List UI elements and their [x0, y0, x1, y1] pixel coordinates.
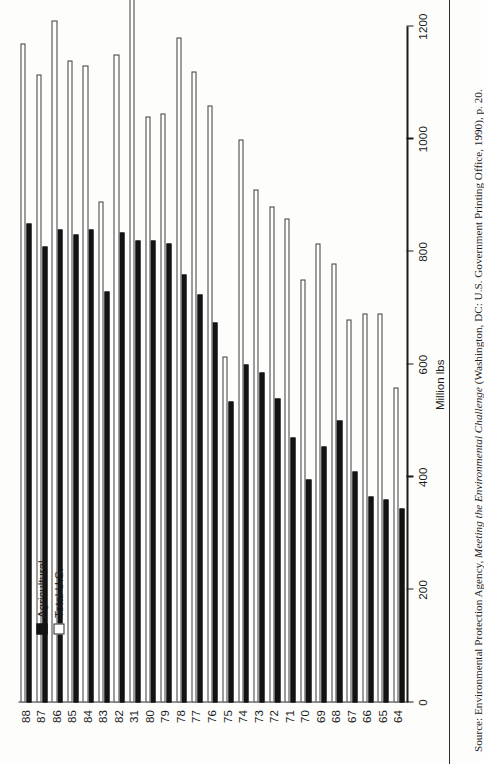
bar-agricultural: [150, 240, 155, 702]
category-label: 70: [298, 710, 310, 723]
bar-agricultural: [228, 401, 233, 702]
axis-tick-label: 400: [416, 467, 428, 487]
axis-tick-label: 600: [416, 354, 428, 374]
axis-tick-label: 0: [416, 699, 428, 706]
axis-tick: [406, 701, 413, 702]
category-label: 87: [34, 710, 46, 723]
bar-total-us: [362, 313, 367, 702]
bar-agricultural: [181, 274, 186, 702]
axis-tick-label: 1000: [416, 125, 428, 151]
bar-total-us: [377, 313, 382, 702]
category-label: 78: [174, 710, 186, 723]
bar-agricultural: [305, 479, 310, 702]
category-label: 69: [314, 710, 326, 723]
bar-total-us: [331, 263, 336, 702]
legend-swatch-total-us: [53, 623, 64, 634]
bar-agricultural: [166, 243, 171, 702]
category-label: 64: [391, 710, 403, 723]
bar-agricultural: [399, 508, 404, 702]
bar-total-us: [222, 356, 227, 702]
bar-agricultural: [104, 291, 109, 702]
category-label: 73: [252, 710, 264, 723]
bar-total-us: [20, 43, 25, 702]
category-label: 88: [19, 710, 31, 723]
category-label: 65: [376, 710, 388, 723]
bar-agricultural: [135, 240, 140, 702]
bar-agricultural: [321, 446, 326, 702]
bar-total-us: [393, 387, 398, 702]
category-label: 86: [50, 710, 62, 723]
bar-agricultural: [212, 322, 217, 702]
legend-label: Agricultural: [35, 560, 47, 618]
bar-agricultural: [368, 496, 373, 702]
bar-agricultural: [336, 420, 341, 702]
rotated-chart-stage: 020040060080010001200Million lbs 6465666…: [0, 0, 449, 764]
category-label: 68: [329, 710, 341, 723]
category-label: 66: [360, 710, 372, 723]
category-label: 82: [112, 710, 124, 723]
bar-total-us: [98, 201, 103, 702]
axis-tick: [406, 363, 413, 364]
bar-agricultural: [290, 437, 295, 702]
axis-tick-label: 200: [416, 579, 428, 599]
axis-tick: [406, 137, 413, 138]
category-label: 67: [345, 710, 357, 723]
bar-total-us: [176, 37, 181, 702]
bar-agricultural: [26, 223, 31, 702]
axis-title: Million lbs: [433, 359, 445, 410]
bar-total-us: [300, 280, 305, 703]
axis-tick: [406, 588, 413, 589]
source-caption: Source: Environmental Protection Agency,…: [472, 52, 484, 752]
axis-tick-label: 800: [416, 241, 428, 261]
category-label: 84: [81, 710, 93, 723]
bar-total-us: [191, 71, 196, 702]
bar-total-us: [129, 0, 134, 702]
bar-agricultural: [73, 234, 78, 702]
category-label: 77: [189, 710, 201, 723]
bar-agricultural: [88, 229, 93, 702]
bar-total-us: [82, 65, 87, 702]
bar-total-us: [315, 243, 320, 702]
chart-legend: AgriculturalTotal U.S.: [35, 560, 69, 635]
bar-agricultural: [119, 232, 124, 702]
bar-agricultural: [383, 499, 388, 702]
source-suffix: (Washington, DC: U.S. Government Printin…: [472, 89, 484, 387]
category-label: 75: [221, 710, 233, 723]
bar-total-us: [284, 218, 289, 702]
bar-total-us: [207, 105, 212, 702]
bar-total-us: [253, 189, 258, 702]
bar-total-us: [346, 319, 351, 702]
category-label: 83: [96, 710, 108, 723]
bar-total-us: [160, 113, 165, 702]
category-label: 76: [205, 710, 217, 723]
bar-agricultural: [274, 398, 279, 702]
bar-total-us: [113, 54, 118, 702]
axis-tick: [406, 250, 413, 251]
axis-tick-label: 1200: [416, 13, 428, 39]
axis-tick: [406, 25, 413, 26]
category-label: 71: [283, 710, 295, 723]
legend-item: Agricultural: [35, 560, 47, 635]
bars-layer: [18, 26, 406, 702]
category-label: 72: [267, 710, 279, 723]
category-label: 31: [127, 710, 139, 723]
bar-agricultural: [259, 372, 264, 702]
category-label: 74: [236, 710, 248, 723]
bar-agricultural: [243, 364, 248, 702]
bar-agricultural: [197, 294, 202, 702]
bar-total-us: [238, 139, 243, 702]
source-prefix: Source: Environmental Protection Agency,: [472, 558, 484, 752]
bar-agricultural: [352, 471, 357, 702]
bar-total-us: [269, 206, 274, 702]
axis-tick: [406, 475, 413, 476]
category-label: 79: [158, 710, 170, 723]
category-label: 80: [143, 710, 155, 723]
category-label: 85: [65, 710, 77, 723]
legend-item: Total U.S.: [52, 560, 64, 635]
legend-swatch-agricultural: [36, 623, 47, 634]
legend-label: Total U.S.: [52, 568, 64, 618]
bar-total-us: [145, 116, 150, 702]
source-title: Meeting the Environmental Challenge: [472, 387, 484, 558]
